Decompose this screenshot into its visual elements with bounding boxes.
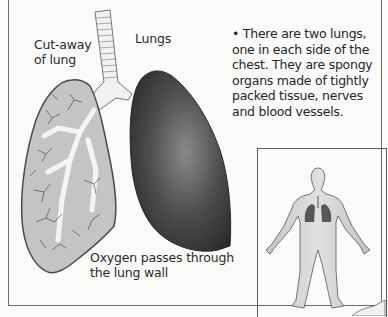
cutaway-label: Cut-away of lung <box>34 37 91 67</box>
bullet-icon: • <box>232 26 239 41</box>
oxygen-label-line1: Oxygen passes through <box>90 250 234 265</box>
solid-lung-icon <box>130 71 231 251</box>
fact-body: There are two lungs, one in each side of… <box>232 26 373 119</box>
oxygen-label: Oxygen passes through the lung wall <box>90 250 234 280</box>
cutaway-label-line1: Cut-away <box>34 37 91 52</box>
fact-text: • There are two lungs, one in each side … <box>232 26 384 119</box>
lungs-label: Lungs <box>135 31 171 46</box>
cutaway-label-line2: of lung <box>34 52 91 67</box>
oxygen-label-line2: the lung wall <box>90 265 234 280</box>
body-inset-panel <box>257 148 387 317</box>
